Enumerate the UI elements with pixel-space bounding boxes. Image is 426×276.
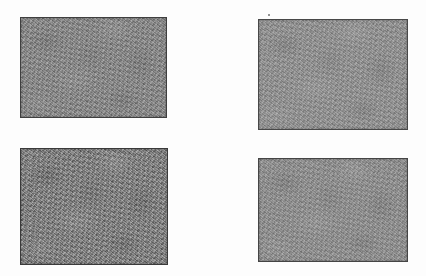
plate-border	[258, 19, 408, 130]
plate-border	[20, 148, 168, 265]
plate-border	[258, 158, 408, 262]
plate-border	[20, 17, 167, 118]
image-plate-top-right	[258, 19, 408, 130]
scanned-page	[0, 0, 426, 276]
image-plate-top-left	[20, 17, 167, 118]
dust-speck-artifact	[268, 14, 270, 16]
image-plate-bottom-right	[258, 158, 408, 262]
image-plate-bottom-left	[20, 148, 168, 265]
